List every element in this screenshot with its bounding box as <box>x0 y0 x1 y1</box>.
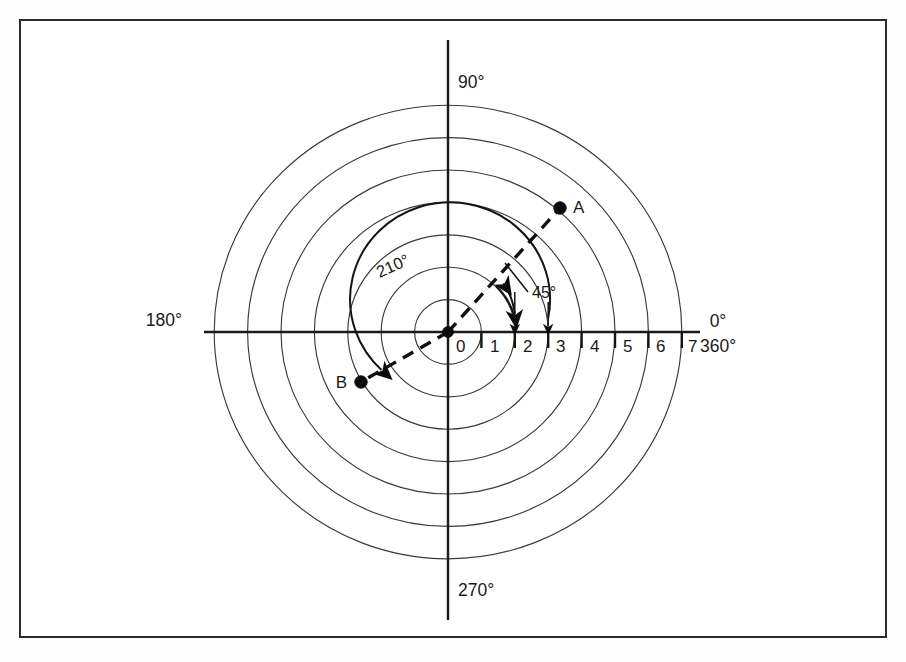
data-point-b[interactable] <box>355 376 367 388</box>
leader-line-45-label <box>505 263 528 292</box>
label-angle-90: 90° <box>458 72 484 92</box>
radial-label-3: 3 <box>556 337 565 356</box>
origin-point <box>443 327 454 338</box>
radial-label-0: 0 <box>456 337 465 356</box>
label-point-a: A <box>573 198 585 217</box>
radial-scale-labels: 0 1 2 3 4 5 6 7 <box>456 337 697 356</box>
angle-arc-210 <box>350 202 550 370</box>
figure-canvas: 90° 270° 180° 0° 360° 0 1 2 3 4 5 6 7 A … <box>0 0 906 662</box>
radial-label-1: 1 <box>490 337 499 356</box>
radial-label-4: 4 <box>590 337 599 356</box>
radial-tick-marks <box>481 332 681 348</box>
dashed-segment-ob <box>361 332 448 382</box>
radial-label-5: 5 <box>623 337 632 356</box>
label-point-b: B <box>336 373 347 392</box>
radial-label-2: 2 <box>523 337 532 356</box>
polar-diagram-svg: 90° 270° 180° 0° 360° 0 1 2 3 4 5 6 7 A … <box>0 0 906 662</box>
label-angle-270: 270° <box>458 580 494 600</box>
label-angle-45: 45° <box>532 284 556 301</box>
dashed-segment-oa <box>448 208 560 332</box>
label-angle-210: 210° <box>373 250 412 280</box>
label-angle-180: 180° <box>146 310 182 330</box>
label-angle-360: 360° <box>700 336 736 356</box>
angle-arc-210-path <box>350 202 550 370</box>
radial-label-6: 6 <box>656 337 665 356</box>
radial-label-7: 7 <box>688 337 697 356</box>
data-point-a[interactable] <box>554 202 566 214</box>
label-angle-0: 0° <box>710 311 727 331</box>
